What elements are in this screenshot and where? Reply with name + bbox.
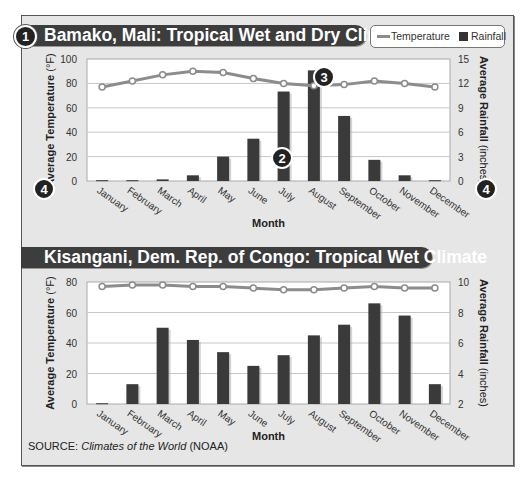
kisangani-chart: 020406080246810JanuaryFebruaryMarchApril… (0, 0, 520, 484)
right-axis-title: Average Rainfall (inches) (478, 279, 490, 407)
rainfall-bar (338, 325, 350, 404)
left-axis-title: Average Temperature (°F) (44, 276, 56, 409)
temperature-point (371, 284, 377, 290)
month-label: April (186, 408, 209, 428)
month-label: August (307, 408, 339, 435)
right-tick-label: 8 (458, 308, 464, 319)
rainfall-bar (126, 384, 138, 404)
rainfall-bar (368, 303, 380, 404)
temperature-point (432, 285, 438, 291)
month-label: July (276, 408, 297, 427)
left-tick-label: 60 (66, 308, 78, 319)
source-title: Climates of the World (81, 440, 186, 452)
left-tick-label: 0 (71, 399, 77, 410)
temperature-point (99, 284, 105, 290)
temperature-point (341, 285, 347, 291)
rainfall-bar (399, 316, 411, 404)
rainfall-bar (429, 384, 441, 404)
rainfall-bar (247, 366, 259, 404)
month-label: June (246, 408, 270, 430)
month-label: January (95, 408, 130, 437)
rainfall-bar (308, 335, 320, 404)
left-tick-label: 40 (66, 338, 78, 349)
temperature-point (311, 287, 317, 293)
temperature-point (190, 284, 196, 290)
x-axis-title: Month (252, 430, 285, 442)
right-tick-label: 10 (458, 277, 470, 288)
temperature-point (129, 282, 135, 288)
month-label: May (216, 408, 238, 428)
temperature-point (250, 285, 256, 291)
rainfall-bar (96, 403, 108, 404)
rainfall-bar (217, 352, 229, 404)
right-tick-label: 2 (458, 399, 464, 410)
temperature-point (402, 285, 408, 291)
right-tick-label: 4 (458, 369, 464, 380)
left-tick-label: 20 (66, 369, 78, 380)
temperature-point (160, 282, 166, 288)
rainfall-bar (187, 340, 199, 404)
left-tick-label: 80 (66, 277, 78, 288)
right-tick-label: 6 (458, 338, 464, 349)
rainfall-bar (278, 355, 290, 404)
temperature-point (281, 287, 287, 293)
temperature-point (220, 284, 226, 290)
rainfall-bar (157, 328, 169, 404)
source-note: SOURCE: Climates of the World (NOAA) (28, 440, 228, 452)
